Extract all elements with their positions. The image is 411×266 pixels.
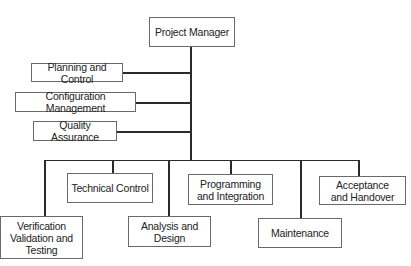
node-verification-validation-testing: Verification Validation and Testing (0, 216, 83, 259)
node-planning-and-control: Planning and Control (31, 63, 123, 82)
drop-acceptance (358, 160, 360, 177)
org-chart-diagram: Project Manager Planning and Control Con… (0, 0, 411, 266)
node-programming-and-integration: Programming and Integration (188, 174, 273, 205)
drop-verification (44, 160, 46, 217)
node-project-manager: Project Manager (149, 17, 235, 47)
drop-technical-control (112, 160, 114, 174)
connector-planning (122, 72, 191, 74)
bus-line (44, 160, 359, 162)
node-quality-assurance: Quality Assurance (33, 121, 117, 141)
drop-maintenance (300, 160, 302, 219)
node-configuration-management: Configuration Management (15, 92, 136, 112)
drop-programming (230, 160, 232, 175)
node-maintenance: Maintenance (258, 218, 342, 248)
node-analysis-and-design: Analysis and Design (128, 216, 211, 247)
node-technical-control: Technical Control (67, 173, 153, 203)
connector-configuration (135, 102, 191, 104)
node-acceptance-and-handover: Acceptance and Handover (319, 176, 406, 205)
drop-analysis (168, 160, 170, 217)
connector-quality (116, 131, 191, 133)
